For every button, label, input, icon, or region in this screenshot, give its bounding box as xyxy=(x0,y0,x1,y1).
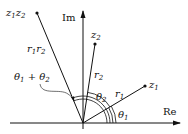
label-r1: r1 xyxy=(115,88,124,101)
label-theta1: θ1 xyxy=(118,109,129,122)
label-z1z2: z1z2 xyxy=(5,7,26,20)
label-theta2: θ2 xyxy=(96,91,107,104)
vector-z2 xyxy=(83,44,95,123)
real-axis-label: Re xyxy=(163,106,177,117)
point-z1 xyxy=(143,84,146,87)
vector-z1 xyxy=(83,86,145,123)
vector-z1z2 xyxy=(37,13,83,123)
label-z2: z2 xyxy=(90,29,101,42)
complex-plane-diagram: Im Re z1z2 z2 z1 r1r2 r2 r1 θ1 θ2 θ1 + θ… xyxy=(0,0,188,134)
leader-arrow xyxy=(40,84,74,101)
point-z2 xyxy=(93,42,96,45)
imag-axis-label: Im xyxy=(62,12,76,23)
label-z1: z1 xyxy=(148,79,159,92)
label-r2: r2 xyxy=(94,69,104,82)
label-r1r2: r1r2 xyxy=(27,43,46,56)
label-theta-sum: θ1 + θ2 xyxy=(14,71,50,84)
point-z1z2 xyxy=(35,11,38,14)
